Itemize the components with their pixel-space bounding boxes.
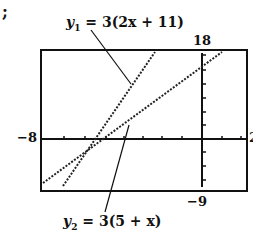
- ymin-label: −9: [187, 194, 207, 209]
- ymax-label: 18: [193, 33, 211, 48]
- series-y1-line: [63, 52, 155, 186]
- series-y2-line: [43, 52, 222, 183]
- y1-leader-line: [91, 30, 131, 84]
- y2-equation-label: y2 = 3(5 + x): [63, 213, 161, 232]
- xmax-label-partial: 2: [249, 130, 253, 145]
- window-frame: [41, 50, 247, 191]
- graph-window: [0, 0, 253, 240]
- xmin-label: −8: [17, 130, 37, 145]
- y1-equation-label: y1 = 3(2x + 11): [66, 14, 184, 33]
